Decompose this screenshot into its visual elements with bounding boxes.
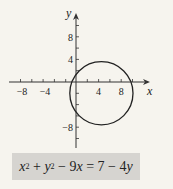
equation-box: x2 + y2 − 9x = 7 − 4y <box>12 153 140 180</box>
x-tick-label-m4: −4 <box>40 86 51 97</box>
x-axis-label: x <box>146 84 153 98</box>
eq-plus: + <box>29 159 44 175</box>
eq-equals: = 7 − 4 <box>83 159 127 175</box>
y-tick-label-m8: −8 <box>62 122 73 133</box>
x-tick-label-8: 8 <box>119 86 124 97</box>
coordinate-graph: −8 −4 4 8 8 4 −8 x y <box>0 0 173 150</box>
x-tick-label-4: 4 <box>96 86 101 97</box>
y-axis-label: y <box>65 6 72 20</box>
y-tick-label-4: 4 <box>68 54 73 65</box>
y-tick-label-8: 8 <box>68 32 73 43</box>
eq-minus9: − 9 <box>55 159 77 175</box>
x-tick-label-m8: −8 <box>17 86 28 97</box>
eq-y2: y <box>127 159 133 175</box>
